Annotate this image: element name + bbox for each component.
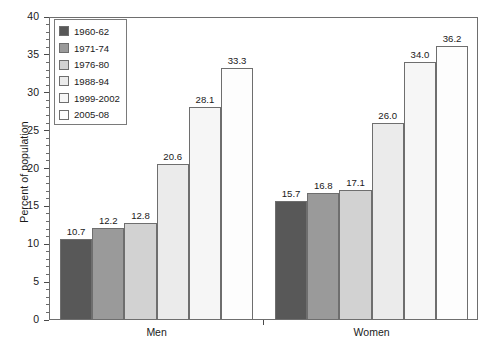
y-axis-tick-label: 20 (9, 162, 39, 174)
bar-value-label: 33.3 (217, 55, 257, 66)
bar (339, 190, 371, 320)
bar-value-label: 10.7 (56, 226, 96, 237)
bar-chart-figure: Percent of population 0510152025303540 1… (0, 0, 493, 361)
x-axis-group-label-men: Men (107, 326, 207, 338)
y-axis-tick-label: 0 (9, 313, 39, 325)
bar (307, 193, 339, 320)
legend-swatch-icon (59, 93, 69, 103)
y-axis-tick-label: 10 (9, 237, 39, 249)
legend-item-label: 1988-94 (74, 76, 109, 87)
y-axis-tick-label: 30 (9, 86, 39, 98)
legend-item: 1999-2002 (59, 90, 126, 107)
y-axis-tick-label: 40 (9, 10, 39, 22)
bar (275, 201, 307, 320)
legend-item-label: 1999-2002 (74, 93, 120, 104)
y-axis-tick-label: 15 (9, 199, 39, 211)
bar-value-label: 34.0 (400, 49, 440, 60)
bar (124, 223, 156, 320)
y-axis-tick-label: 35 (9, 48, 39, 60)
legend-swatch-icon (59, 60, 69, 70)
bar (60, 239, 92, 320)
bar (372, 123, 404, 320)
bar (157, 164, 189, 320)
bar-value-label: 12.8 (120, 210, 160, 221)
legend-item: 1971-74 (59, 40, 126, 57)
x-axis-group-label-women: Women (322, 326, 422, 338)
legend-item-label: 1971-74 (74, 43, 109, 54)
group-separator-tick (263, 320, 264, 325)
legend-swatch-icon (59, 110, 69, 120)
bar-value-label: 20.6 (153, 151, 193, 162)
legend-item: 2005-08 (59, 106, 126, 123)
legend-item: 1960-62 (59, 23, 126, 40)
y-axis-tick-label: 5 (9, 275, 39, 287)
bar (221, 68, 253, 320)
bar-value-label: 26.0 (368, 110, 408, 121)
bar (189, 107, 221, 320)
legend-swatch-icon (59, 76, 69, 86)
legend-item-label: 1960-62 (74, 26, 109, 37)
bar-value-label: 17.1 (335, 177, 375, 188)
bar (404, 62, 436, 320)
legend-swatch-icon (59, 26, 69, 36)
bar-value-label: 36.2 (432, 33, 472, 44)
bar (92, 228, 124, 320)
chart-legend: 1960-621971-741976-801988-941999-2002200… (54, 19, 127, 125)
legend-swatch-icon (59, 43, 69, 53)
y-axis-tick-label: 25 (9, 124, 39, 136)
legend-item-label: 1976-80 (74, 59, 109, 70)
legend-item: 1976-80 (59, 56, 126, 73)
legend-item-label: 2005-08 (74, 109, 109, 120)
bar (436, 46, 468, 320)
legend-item: 1988-94 (59, 73, 126, 90)
bar-value-label: 28.1 (185, 94, 225, 105)
